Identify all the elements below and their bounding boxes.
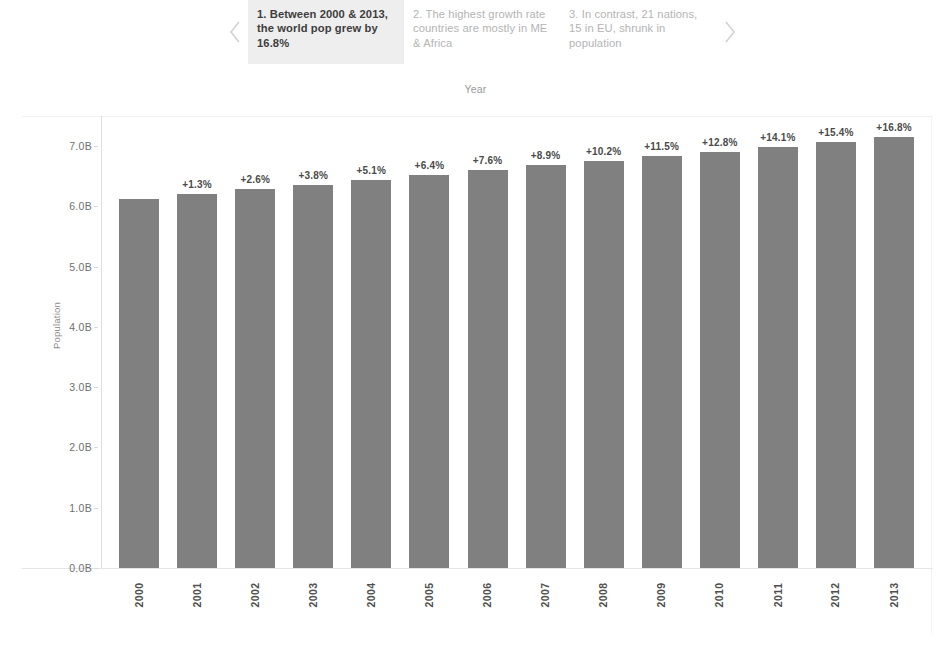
y-axis-tick-labels: 0.0B1.0B2.0B3.0B4.0B5.0B6.0B7.0B <box>18 116 98 568</box>
story-card-2[interactable]: 2. The highest growth rate countries are… <box>404 0 560 64</box>
bar[interactable] <box>468 170 508 568</box>
y-axis-tick-label: 2.0B <box>69 441 92 453</box>
story-card-3-text: 3. In contrast, 21 nations, 15 in EU, sh… <box>569 8 697 49</box>
x-axis-tick-label: 2013 <box>888 583 900 608</box>
x-axis-tick-label: 2012 <box>830 583 842 608</box>
y-axis-tick-label: 7.0B <box>69 140 92 152</box>
bar-slot: +5.1% <box>342 116 400 568</box>
bar[interactable] <box>758 147 798 568</box>
x-axis-tick-label: 2000 <box>133 583 145 608</box>
story-card-2-text: 2. The highest growth rate countries are… <box>413 8 547 49</box>
y-axis-tick-mark <box>94 146 98 147</box>
bar-value-label: +2.6% <box>240 174 270 185</box>
story-card-list: 1. Between 2000 & 2013, the world pop gr… <box>248 0 716 68</box>
x-axis-tick-label: 2005 <box>423 583 435 608</box>
bar[interactable] <box>409 175 449 568</box>
bar-slot: +12.8% <box>691 116 749 568</box>
bar-slot: +6.4% <box>400 116 458 568</box>
bar-value-label: +12.8% <box>702 137 737 148</box>
bar[interactable] <box>119 199 159 568</box>
bar-value-label: +15.4% <box>818 127 853 138</box>
x-tick-slot: 2011 <box>749 569 807 631</box>
x-tick-slot: 2013 <box>865 569 923 631</box>
y-axis-tick-label: 6.0B <box>69 200 92 212</box>
x-axis-tick-label: 2004 <box>365 583 377 608</box>
x-tick-slot: 2001 <box>168 569 226 631</box>
x-axis-tick-label: 2007 <box>540 583 552 608</box>
y-axis-tick-mark <box>94 568 98 569</box>
bar-slot: +2.6% <box>226 116 284 568</box>
bar-slot: +10.2% <box>575 116 633 568</box>
y-axis-tick-label: 1.0B <box>69 502 92 514</box>
x-tick-slot: 2005 <box>400 569 458 631</box>
bar-value-label: +1.3% <box>182 179 212 190</box>
bar[interactable] <box>584 161 624 568</box>
bar-value-label: +5.1% <box>357 165 387 176</box>
bar[interactable] <box>177 194 217 568</box>
bar-slot <box>110 116 168 568</box>
bar[interactable] <box>351 180 391 568</box>
story-carousel: 1. Between 2000 & 2013, the world pop gr… <box>222 0 742 76</box>
x-tick-slot: 2000 <box>110 569 168 631</box>
x-axis-tick-label: 2006 <box>482 583 494 608</box>
bar-value-label: +14.1% <box>760 132 795 143</box>
chevron-right-icon[interactable] <box>716 0 742 64</box>
plot-body: +1.3%+2.6%+3.8%+5.1%+6.4%+7.6%+8.9%+10.2… <box>102 116 931 568</box>
x-tick-slot: 2010 <box>691 569 749 631</box>
y-axis-tick-mark <box>94 508 98 509</box>
bar-value-label: +16.8% <box>876 122 911 133</box>
bar[interactable] <box>235 189 275 568</box>
bar-slot: +11.5% <box>633 116 691 568</box>
bar-series: +1.3%+2.6%+3.8%+5.1%+6.4%+7.6%+8.9%+10.2… <box>102 116 931 568</box>
x-axis-tick-label: 2002 <box>249 583 261 608</box>
story-card-3[interactable]: 3. In contrast, 21 nations, 15 in EU, sh… <box>560 0 716 64</box>
x-axis-tick-label: 2010 <box>714 583 726 608</box>
x-axis-tick-labels: 2000200120022003200420052006200720082009… <box>102 569 931 631</box>
population-bar-chart: Year Population 0.0B1.0B2.0B3.0B4.0B5.0B… <box>18 83 933 633</box>
bar[interactable] <box>816 142 856 568</box>
bar-value-label: +10.2% <box>586 146 621 157</box>
bar-value-label: +7.6% <box>473 155 503 166</box>
bar[interactable] <box>526 165 566 568</box>
chart-title: Year <box>18 83 933 95</box>
y-axis-tick-label: 0.0B <box>69 562 92 574</box>
y-axis-tick-label: 4.0B <box>69 321 92 333</box>
bar-slot: +7.6% <box>458 116 516 568</box>
x-tick-slot: 2002 <box>226 569 284 631</box>
bar-slot: +16.8% <box>865 116 923 568</box>
plot-frame-right-border <box>931 116 932 633</box>
x-axis-tick-label: 2009 <box>656 583 668 608</box>
x-axis-tick-label: 2008 <box>598 583 610 608</box>
bar[interactable] <box>642 156 682 568</box>
chevron-left-icon[interactable] <box>222 0 248 64</box>
bar-value-label: +6.4% <box>415 160 445 171</box>
y-axis-tick-mark <box>94 387 98 388</box>
bar-value-label: +11.5% <box>644 141 679 152</box>
bar[interactable] <box>293 185 333 568</box>
y-axis-tick-mark <box>94 206 98 207</box>
bar[interactable] <box>874 137 914 569</box>
y-axis-tick-mark <box>94 447 98 448</box>
x-axis-tick-label: 2011 <box>772 583 784 607</box>
bar-slot: +14.1% <box>749 116 807 568</box>
x-tick-slot: 2008 <box>575 569 633 631</box>
x-tick-slot: 2009 <box>633 569 691 631</box>
y-axis-tick-mark <box>94 327 98 328</box>
x-tick-slot: 2004 <box>342 569 400 631</box>
bar-slot: +8.9% <box>517 116 575 568</box>
x-tick-slot: 2007 <box>517 569 575 631</box>
bar-slot: +1.3% <box>168 116 226 568</box>
x-tick-slot: 2003 <box>284 569 342 631</box>
x-axis-tick-label: 2001 <box>191 583 203 608</box>
bar-slot: +3.8% <box>284 116 342 568</box>
y-axis-tick-label: 5.0B <box>69 261 92 273</box>
bar-value-label: +3.8% <box>298 170 328 181</box>
bar[interactable] <box>700 152 740 568</box>
y-axis-tick-mark <box>94 267 98 268</box>
x-tick-slot: 2006 <box>458 569 516 631</box>
story-card-1-text: 1. Between 2000 & 2013, the world pop gr… <box>257 8 388 49</box>
bar-value-label: +8.9% <box>531 150 561 161</box>
y-axis-tick-label: 3.0B <box>69 381 92 393</box>
bar-slot: +15.4% <box>807 116 865 568</box>
story-card-1[interactable]: 1. Between 2000 & 2013, the world pop gr… <box>248 0 404 64</box>
